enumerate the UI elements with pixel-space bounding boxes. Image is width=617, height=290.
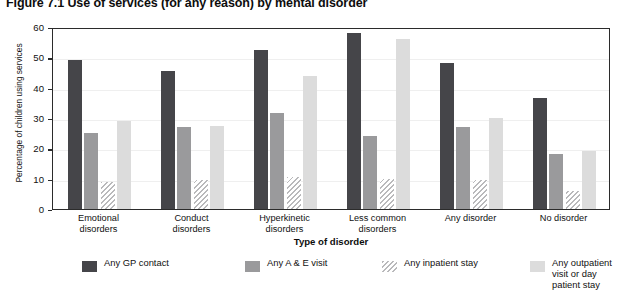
x-tick-label: Less commondisorders xyxy=(331,213,424,234)
x-tick-label: No disorder xyxy=(517,213,610,224)
legend-item: Any GP contact xyxy=(82,258,169,272)
y-tick-label: 0 xyxy=(16,205,44,215)
y-tick-label: 40 xyxy=(16,84,44,94)
legend-item: Any inpatient stay xyxy=(382,258,478,272)
y-tick-mark xyxy=(48,58,52,59)
y-tick-label: 60 xyxy=(16,23,44,33)
y-tick-label: 30 xyxy=(16,114,44,124)
legend-item: Any A & E visit xyxy=(245,258,327,272)
chart-title: Figure 7.1 Use of services (for any reas… xyxy=(6,0,367,10)
legend-label: Any outpatient visit or day patient stay xyxy=(552,258,612,290)
x-axis-title: Type of disorder xyxy=(52,236,610,247)
x-tick-label: Emotionaldisorders xyxy=(52,213,145,234)
y-tick-label: 20 xyxy=(16,145,44,155)
chart-legend: Any GP contactAny A & E visitAny inpatie… xyxy=(52,258,612,284)
legend-label: Any inpatient stay xyxy=(404,258,478,269)
y-tick-mark xyxy=(48,149,52,150)
y-tick-label: 10 xyxy=(16,175,44,185)
y-tick-mark xyxy=(48,210,52,211)
legend-label: Any A & E visit xyxy=(267,258,327,269)
legend-swatch-outpat xyxy=(530,261,545,272)
legend-swatch-gp xyxy=(82,261,97,272)
legend-label: Any GP contact xyxy=(104,258,169,269)
legend-swatch-inpat xyxy=(382,261,397,272)
x-tick-label: Conductdisorders xyxy=(145,213,238,234)
y-tick-mark xyxy=(48,28,52,29)
legend-item: Any outpatient visit or day patient stay xyxy=(530,258,612,290)
y-axis-ticks: 0102030405060 xyxy=(52,28,610,210)
legend-swatch-ae xyxy=(245,261,260,272)
y-tick-mark xyxy=(48,89,52,90)
x-tick-label: Hyperkineticdisorders xyxy=(238,213,331,234)
y-tick-mark xyxy=(48,180,52,181)
x-tick-label: Any disorder xyxy=(424,213,517,224)
y-tick-label: 50 xyxy=(16,54,44,64)
y-tick-mark xyxy=(48,119,52,120)
